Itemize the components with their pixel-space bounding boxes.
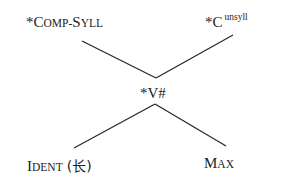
label-base: C	[213, 14, 223, 30]
label-initial: S	[72, 14, 80, 30]
label-paren: (长)	[67, 158, 92, 174]
label-initial: C	[34, 14, 44, 30]
label-initial: M	[204, 155, 217, 171]
star-mark: *	[205, 14, 213, 30]
edge-compsyll-vhash	[82, 41, 156, 78]
label-smallcaps: OMP-	[44, 17, 73, 29]
edge-vhash-ident	[74, 104, 155, 148]
node-v-hash: *V#	[140, 86, 166, 101]
label-smallcaps: DENT	[32, 161, 63, 173]
label-smallcaps: AX	[217, 158, 234, 170]
edge-vhash-max	[155, 104, 226, 146]
node-c-unsyll: *Cunsyll	[205, 14, 248, 30]
node-ident: IDENT (长)	[27, 158, 92, 174]
edge-cunsyll-vhash	[156, 35, 233, 78]
label-superscript: unsyll	[225, 12, 248, 22]
label-smallcaps: YLL	[81, 17, 103, 29]
star-mark: *	[26, 14, 34, 30]
node-comp-syll: *COMP-SYLL	[26, 14, 103, 30]
node-max: MAX	[204, 155, 234, 171]
